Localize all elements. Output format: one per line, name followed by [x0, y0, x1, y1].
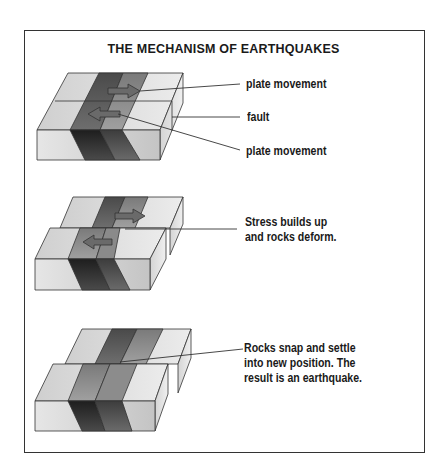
label-line: Rocks snap and settle [244, 341, 362, 356]
label-line: into new position. The [244, 356, 362, 371]
earthquake-illustration [0, 0, 447, 472]
label-plate-movement-top: plate movement [246, 77, 326, 92]
stage-2-block [35, 197, 183, 290]
label-fault: fault [247, 110, 269, 125]
label-line: Stress builds up [245, 215, 337, 230]
label-rocks-snap: Rocks snap and settle into new position.… [244, 341, 362, 386]
label-line: and rocks deform. [245, 230, 337, 245]
label-stress-builds: Stress builds up and rocks deform. [245, 215, 337, 245]
label-plate-movement-bottom: plate movement [246, 144, 326, 159]
stage-3-block [35, 329, 191, 431]
stage-1-block [37, 73, 183, 160]
label-line: result is an earthquake. [244, 371, 362, 386]
